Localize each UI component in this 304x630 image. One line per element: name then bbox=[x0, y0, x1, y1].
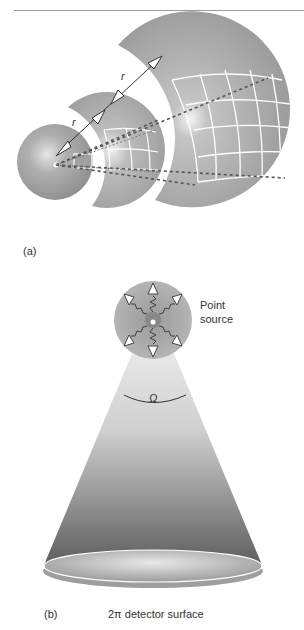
radius-label-inner: r bbox=[72, 116, 76, 128]
detector-disc bbox=[44, 550, 262, 582]
panel-a-label: (a) bbox=[23, 245, 36, 257]
panel-b-label: (b) bbox=[44, 608, 57, 620]
point-source-group bbox=[43, 281, 263, 588]
diagram-canvas bbox=[0, 0, 304, 630]
detector-surface-label: 2π detector surface bbox=[108, 608, 204, 620]
point-source-label-line2: source bbox=[200, 313, 233, 325]
concentric-shells-group bbox=[17, 11, 292, 208]
radius-label-outer: r bbox=[121, 70, 125, 82]
point-source-label-line1: Point bbox=[200, 299, 225, 311]
solid-angle-label: Ω bbox=[149, 392, 157, 404]
